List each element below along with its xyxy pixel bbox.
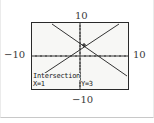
calculator-graph-screen: Intersection X=1 Y=3 (31, 22, 129, 90)
intersection-y-value: Y=3 (81, 81, 93, 88)
ymin-label: −10 (72, 95, 93, 105)
xmax-label: 10 (133, 50, 146, 60)
xmin-label: −10 (4, 50, 25, 60)
ymax-label: 10 (75, 11, 88, 21)
intersection-title: Intersection (33, 73, 80, 80)
intersection-x-value: X=1 (33, 81, 45, 88)
decreasing-line (52, 24, 127, 76)
